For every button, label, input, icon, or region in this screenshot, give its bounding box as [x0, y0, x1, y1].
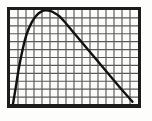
data-curve	[10, 10, 138, 105]
graph-figure	[0, 0, 152, 121]
plot-frame	[7, 7, 141, 108]
axis-baseline	[7, 104, 141, 108]
